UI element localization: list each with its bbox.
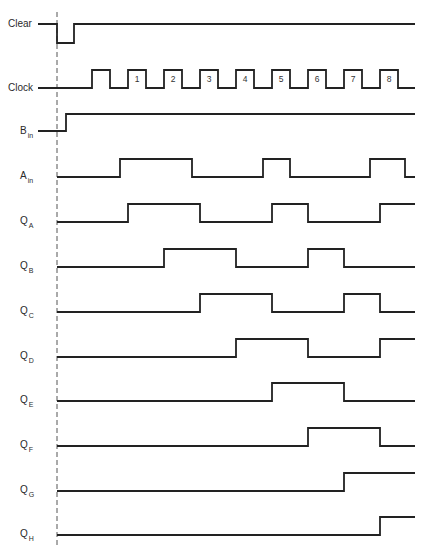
clock-pulse-number: 6 (315, 74, 320, 84)
label-q-f: QF (20, 439, 33, 453)
clock-pulse-number: 5 (279, 74, 284, 84)
waveform-q-a (57, 204, 415, 222)
waveform-q-g (57, 473, 415, 491)
timing-diagram: ClearClockBinAinQAQBQCQDQEQFQGQH 1234567… (0, 0, 432, 559)
clock-pulse-number: 8 (387, 74, 392, 84)
clock-pulse-numbers: 12345678 (135, 74, 392, 84)
waveforms (38, 24, 415, 535)
label-q-b: QB (20, 260, 34, 274)
waveform-clear (38, 24, 415, 43)
label-q-c: QC (20, 305, 34, 319)
label-b-in: Bin (20, 125, 33, 139)
clock-pulse-number: 3 (207, 74, 212, 84)
label-q-e: QE (20, 394, 34, 408)
label-q-h: QH (20, 528, 34, 542)
waveform-q-f (57, 428, 415, 446)
signal-labels: ClearClockBinAinQAQBQCQDQEQFQGQH (8, 18, 34, 542)
clock-pulse-number: 7 (351, 74, 356, 84)
waveform-q-d (57, 339, 415, 357)
label-q-g: QG (20, 484, 34, 498)
clock-pulse-number: 1 (135, 74, 140, 84)
waveform-a-in (57, 159, 415, 177)
label-q-a: QA (20, 215, 34, 229)
label-clear: Clear (8, 18, 33, 29)
waveform-q-h (57, 517, 415, 535)
clock-pulse-number: 2 (171, 74, 176, 84)
waveform-clock (38, 70, 415, 88)
waveform-q-c (57, 294, 415, 312)
waveform-q-e (57, 383, 415, 401)
label-q-d: QD (20, 350, 34, 364)
clock-pulse-number: 4 (243, 74, 248, 84)
waveform-b-in (38, 114, 415, 131)
label-clock: Clock (8, 82, 34, 93)
label-a-in: Ain (20, 170, 33, 184)
waveform-q-b (57, 249, 415, 267)
